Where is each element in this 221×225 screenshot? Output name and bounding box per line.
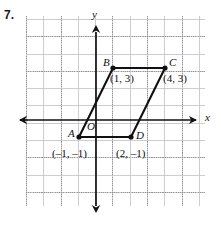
vertex-d-dot — [128, 134, 133, 139]
vertex-b-dot — [110, 65, 115, 70]
point-label-b: B — [103, 57, 110, 68]
origin-label: O — [87, 121, 95, 132]
y-axis — [92, 25, 100, 213]
point-coords-a: (–1, –1) — [52, 148, 87, 159]
point-coords-c: (4, 3) — [163, 73, 187, 84]
x-axis-label: x — [205, 112, 210, 123]
point-label-a: A — [68, 128, 75, 139]
point-coords-d: (2, –1) — [116, 148, 145, 159]
vertex-c-dot — [162, 65, 167, 70]
vertex-a-dot — [76, 134, 81, 139]
point-coords-b: (1, 3) — [110, 73, 134, 84]
graph-vector-layer — [0, 0, 221, 225]
y-axis-label: y — [92, 9, 97, 20]
point-label-c: C — [169, 57, 176, 68]
point-label-d: D — [136, 130, 144, 141]
worksheet-figure: 7. — [0, 0, 221, 225]
coordinate-graph: y x O A B C D (–1, –1) (1, 3) (4, 3) (2,… — [0, 0, 221, 225]
x-axis — [19, 116, 196, 124]
